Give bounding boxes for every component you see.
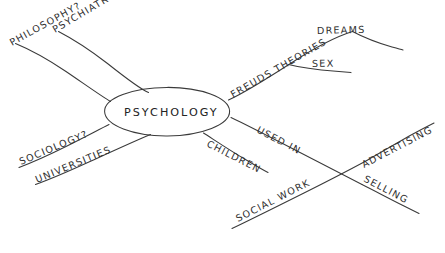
- children-label: CHILDREN: [205, 138, 263, 175]
- branch-advertising: ADVERTISING: [360, 123, 435, 170]
- used-in-label: USED IN: [255, 124, 303, 156]
- philosophy-branch-line: [16, 44, 111, 102]
- psychiatry-branch-line: [59, 32, 149, 93]
- center-node-label: PSYCHOLOGY: [124, 106, 219, 119]
- selling-label: SELLING: [362, 173, 411, 205]
- sex-label: SEX: [312, 58, 335, 69]
- branch-sociology: SOCIOLOGY?: [17, 125, 109, 168]
- dreams-label: DREAMS: [317, 24, 366, 36]
- branch-selling: SELLING: [362, 173, 419, 213]
- branch-used-in: USED IN: [231, 118, 362, 185]
- branch-dreams: DREAMS: [317, 24, 403, 50]
- branch-philosophy: PHILOSOPHY?: [8, 0, 111, 102]
- mind-map-canvas: PSYCHOLOGY PSYCHIATRY? PHILOSOPHY? FREUD…: [0, 0, 445, 253]
- advertising-label: ADVERTISING: [360, 124, 435, 170]
- social-work-label: SOCIAL WORK: [234, 177, 312, 224]
- branch-children: CHILDREN: [204, 133, 269, 175]
- center-node: PSYCHOLOGY: [105, 87, 230, 136]
